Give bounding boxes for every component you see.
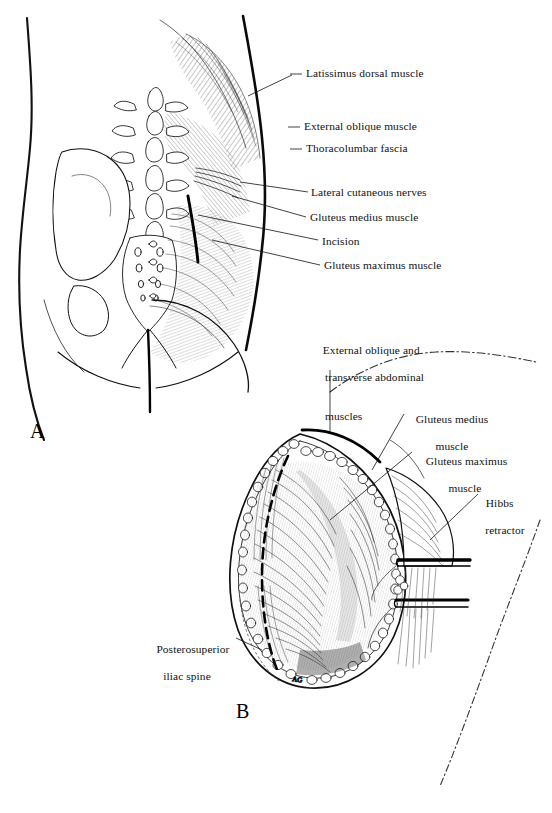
artist-signature: AG bbox=[292, 675, 303, 684]
label-gluteus-medius-muscle-a: Gluteus medius muscle bbox=[310, 211, 418, 224]
label-incision: Incision bbox=[322, 235, 360, 248]
label-line-2: retractor bbox=[474, 524, 536, 537]
label-line-2: iliac spine bbox=[140, 670, 234, 683]
left-ilium bbox=[53, 149, 130, 281]
label-line-1: Gluteus medius bbox=[416, 413, 489, 425]
label-line-1: Gluteus maximus bbox=[426, 455, 508, 467]
label-posterosuperior-iliac-spine: Posterosuperior iliac spine bbox=[140, 630, 234, 709]
hibbs-retractor-lower-blade bbox=[395, 600, 469, 607]
left-ischium bbox=[68, 286, 109, 336]
label-line-1: Hibbs bbox=[486, 497, 514, 509]
label-lateral-cutaneous-nerves: Lateral cutaneous nerves bbox=[311, 186, 427, 199]
label-line-1: Posterosuperior bbox=[156, 643, 229, 655]
label-line-2: transverse abdominal bbox=[311, 371, 424, 384]
label-latissimus-dorsal-muscle: Latissimus dorsal muscle bbox=[306, 67, 424, 80]
leader-lateral-cutaneous bbox=[240, 182, 308, 192]
label-gluteus-maximus-muscle-a: Gluteus maximus muscle bbox=[324, 259, 441, 272]
label-hibbs-retractor: Hibbs retractor bbox=[474, 484, 536, 563]
torso-left-outline bbox=[19, 18, 44, 440]
label-line-1: External oblique and bbox=[323, 344, 420, 356]
panel-letter-a: A bbox=[30, 420, 44, 443]
gluteal-cleft bbox=[148, 330, 150, 412]
panel-a-artwork bbox=[19, 16, 265, 440]
medical-illustration-figure: AG Latissimus dorsal muscle External obl… bbox=[0, 0, 552, 813]
label-thoracolumbar-fascia: Thoracolumbar fascia bbox=[306, 142, 408, 155]
label-external-oblique-muscle: External oblique muscle bbox=[304, 120, 417, 133]
panel-letter-b: B bbox=[236, 700, 249, 723]
